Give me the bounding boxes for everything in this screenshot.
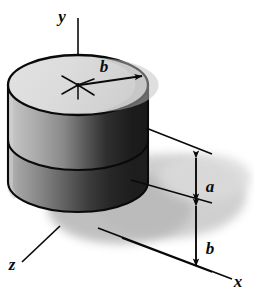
cylinder-solid [7,55,158,212]
axis-y-label: y [56,7,66,26]
dimension-label-a: a [206,177,215,196]
figure-root: y z x [0,0,254,291]
leader-line-bottom [122,238,212,272]
axis-x-label: x [233,272,243,291]
cylinder-diagram-svg: y z x [0,0,254,291]
dimension-label-b: b [206,239,215,258]
radius-label-b: b [100,57,109,76]
axis-z-label: z [8,255,16,274]
leader-line-top [146,128,212,154]
axis-z [22,226,60,262]
